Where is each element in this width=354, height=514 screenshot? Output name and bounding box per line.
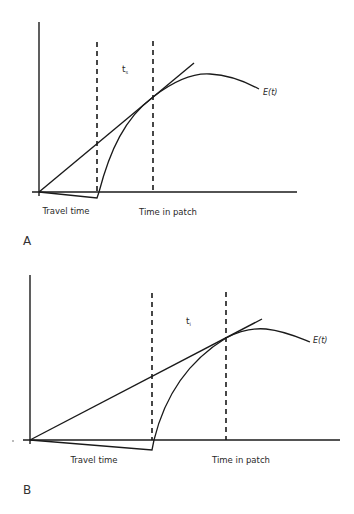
travel-cost-line	[39, 192, 99, 198]
stray-dot	[12, 440, 13, 441]
time-in-patch-label: Time in patch	[138, 207, 197, 217]
panel-a: E(t) ts Travel time Time in patch A	[23, 22, 297, 248]
gain-curve	[154, 329, 310, 440]
panel-label: B	[23, 483, 31, 497]
tangent-time-label: ts	[122, 64, 129, 75]
panel-b: E(t) ti Travel time Time in patch B	[12, 275, 340, 497]
travel-cost-line	[30, 440, 154, 450]
gain-curve	[99, 74, 259, 192]
travel-time-label: Travel time	[41, 206, 89, 216]
curve-label: E(t)	[263, 88, 277, 97]
time-in-patch-label: Time in patch	[211, 455, 270, 465]
tangent-line	[39, 63, 194, 192]
curve-label: E(t)	[313, 336, 327, 345]
figure-canvas: E(t) ts Travel time Time in patch A E(t)…	[0, 0, 354, 514]
panel-label: A	[23, 234, 32, 248]
tangent-time-label: ti	[186, 316, 191, 327]
travel-time-label: Travel time	[69, 455, 117, 465]
